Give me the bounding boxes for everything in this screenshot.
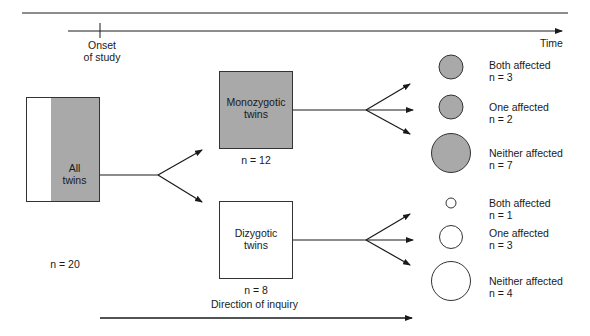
- all-twins-label-line1: All: [50, 162, 99, 174]
- circle-mz-one: [439, 95, 463, 119]
- dz-both-n: n = 1: [489, 209, 551, 221]
- time-label: Time: [540, 37, 563, 49]
- mz-neither-n: n = 7: [489, 159, 563, 171]
- dizygotic-n: n = 8: [231, 284, 281, 296]
- dz-outcome-one: One affected n = 3: [489, 227, 549, 251]
- dz-both-label: Both affected: [489, 197, 551, 209]
- dz-neither-label: Neither affected: [489, 275, 563, 287]
- direction-of-inquiry-label: Direction of inquiry: [211, 298, 298, 310]
- arrow-dz-both: [366, 214, 410, 240]
- mz-outcome-neither: Neither affected n = 7: [489, 147, 563, 171]
- monozygotic-label-line1: Monozygotic: [219, 96, 293, 108]
- arrow-mz-neither: [366, 110, 410, 134]
- mz-outcome-one: One affected n = 2: [489, 101, 549, 125]
- circle-mz-neither: [432, 134, 471, 173]
- mz-both-n: n = 3: [489, 71, 551, 83]
- arrow-mz-both: [366, 84, 410, 110]
- circle-dz-both: [446, 198, 456, 208]
- circle-dz-neither: [432, 262, 471, 301]
- onset-label-line1: Onset: [72, 39, 132, 51]
- mz-one-n: n = 2: [489, 113, 549, 125]
- mz-outcome-both: Both affected n = 3: [489, 59, 551, 83]
- all-twins-label-line2: twins: [50, 174, 99, 186]
- dizygotic-label-line2: twins: [219, 239, 293, 251]
- all-twins-box: [26, 97, 100, 202]
- mz-neither-label: Neither affected: [489, 147, 563, 159]
- dz-one-n: n = 3: [489, 239, 549, 251]
- onset-of-study-label: Onset of study: [72, 39, 132, 63]
- arrow-dz-neither: [366, 240, 410, 265]
- dz-outcome-neither: Neither affected n = 4: [489, 275, 563, 299]
- dizygotic-label-line1: Dizygotic: [219, 227, 293, 239]
- circle-dz-one: [440, 226, 463, 249]
- monozygotic-label-line2: twins: [219, 108, 293, 120]
- dz-one-label: One affected: [489, 227, 549, 239]
- arrow-to-monozygotic: [158, 150, 202, 175]
- arrow-to-dizygotic: [158, 175, 202, 202]
- mz-one-label: One affected: [489, 101, 549, 113]
- mz-both-label: Both affected: [489, 59, 551, 71]
- dz-outcome-both: Both affected n = 1: [489, 197, 551, 221]
- circle-mz-both: [439, 55, 463, 79]
- onset-label-line2: of study: [72, 51, 132, 63]
- monozygotic-n: n = 12: [231, 154, 281, 166]
- dz-neither-n: n = 4: [489, 287, 563, 299]
- all-twins-label: All twins: [50, 162, 99, 186]
- dizygotic-label: Dizygotic twins: [219, 227, 293, 251]
- monozygotic-label: Monozygotic twins: [219, 96, 293, 120]
- all-twins-n: n = 20: [40, 258, 90, 270]
